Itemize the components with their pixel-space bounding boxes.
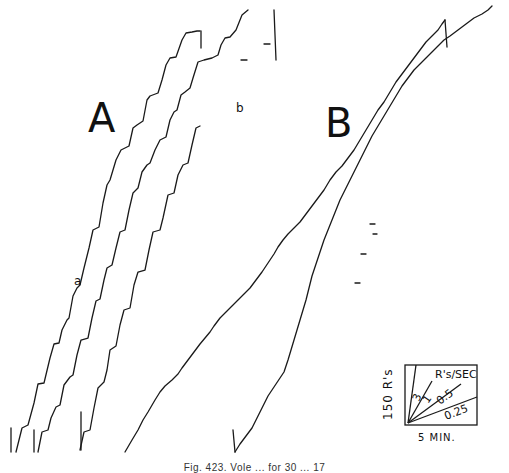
panel-label-b: B xyxy=(325,103,352,143)
record-b2 xyxy=(235,6,492,452)
curve-label-b: b xyxy=(236,102,244,114)
curve-label-a: a xyxy=(74,275,81,287)
panel-label-a: A xyxy=(88,98,115,138)
legend-rate-0-25: 0.25 xyxy=(442,402,470,423)
record-b1-end-tick xyxy=(445,20,447,47)
legend-x-scale-label: 5 MIN. xyxy=(418,432,456,443)
record-a2 xyxy=(38,10,248,452)
legend-rate-1: 1 xyxy=(420,393,435,406)
legend-rate-unit: R's/SEC xyxy=(435,368,477,381)
record-b1 xyxy=(125,20,445,452)
figure-caption: Fig. 423. Vole ... for 30 ... 17 xyxy=(0,462,509,473)
legend-y-scale-label: 150 R's xyxy=(381,368,395,420)
record-b2-start-tick xyxy=(233,430,235,452)
record-a2-end-tick xyxy=(274,10,276,60)
record-a3 xyxy=(80,126,200,450)
